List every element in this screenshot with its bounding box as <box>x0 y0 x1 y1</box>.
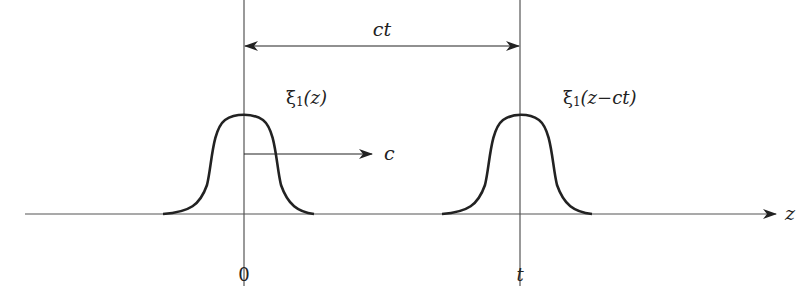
pulse-right-label: ξ1(z−ct) <box>563 87 637 109</box>
traveling-wave-diagram: ct ξ1(z) ξ1(z−ct) c z 0 t <box>0 0 808 305</box>
argument: (z) <box>304 87 328 108</box>
tick-label-t: t <box>516 264 524 285</box>
diagram-canvas: ct ξ1(z) ξ1(z−ct) c z 0 t <box>0 0 808 305</box>
tick-label-0: 0 <box>238 264 249 285</box>
subscript: 1 <box>296 95 304 109</box>
argument: (z−ct) <box>581 87 637 108</box>
xi-symbol: ξ <box>563 87 573 108</box>
pulse-right <box>442 115 592 214</box>
z-axis-label: z <box>784 202 796 224</box>
xi-symbol: ξ <box>286 87 296 108</box>
pulse-left <box>163 115 314 214</box>
subscript: 1 <box>573 95 581 109</box>
velocity-label: c <box>384 142 395 164</box>
ct-label: ct <box>373 18 392 40</box>
pulse-left-label: ξ1(z) <box>286 87 327 109</box>
